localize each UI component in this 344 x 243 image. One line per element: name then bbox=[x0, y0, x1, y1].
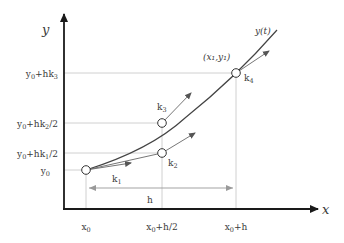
point-k2 bbox=[158, 149, 167, 158]
y-tick-hk1: y0+hk1/2 bbox=[16, 149, 58, 161]
point-x1y1-label: (x₁,y₁) bbox=[203, 52, 231, 62]
y-axis-label: y bbox=[41, 22, 50, 37]
y-tick-y0: y0 bbox=[40, 166, 50, 178]
slope-k2-arrow bbox=[162, 133, 195, 153]
label-k1: k1 bbox=[112, 174, 122, 186]
x-tick-labels: x0 x0+h/2 x0+h bbox=[81, 222, 247, 234]
curve-label: y(t) bbox=[254, 26, 271, 36]
point-y0 bbox=[82, 166, 91, 175]
y-tick-hk3: y0+hk3 bbox=[25, 69, 58, 81]
x-tick-h: x0+h bbox=[225, 222, 248, 234]
point-k3 bbox=[158, 119, 167, 128]
x-tick-half: x0+h/2 bbox=[146, 222, 177, 234]
label-k2: k2 bbox=[168, 158, 178, 170]
rk4-diagram: y x y(t) (x₁,y₁) y0+hk3 y0+hk2/2 y0+hk1/… bbox=[0, 0, 344, 243]
x-tick-x0: x0 bbox=[81, 222, 90, 234]
x-axis-label: x bbox=[322, 202, 330, 217]
solution-curve bbox=[86, 30, 277, 170]
point-k4 bbox=[232, 69, 241, 78]
label-k4: k4 bbox=[244, 73, 254, 85]
y-tick-hk2: y0+hk2/2 bbox=[16, 119, 58, 131]
step-h-label: h bbox=[147, 195, 153, 205]
slope-k4-arrow bbox=[236, 51, 269, 73]
slope-labels: k1 k2 k3 k4 bbox=[112, 73, 254, 186]
label-k3: k3 bbox=[157, 102, 167, 114]
y-tick-labels: y0+hk3 y0+hk2/2 y0+hk1/2 y0 bbox=[16, 69, 58, 178]
